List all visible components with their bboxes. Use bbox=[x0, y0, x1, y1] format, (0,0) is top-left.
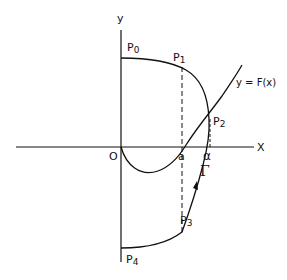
y-axis-label: y bbox=[117, 12, 124, 25]
curve-label: y = F(x) bbox=[236, 77, 276, 88]
point-p3: P3 bbox=[180, 214, 192, 228]
origin-label: O bbox=[109, 150, 118, 163]
gamma-label: Γ bbox=[200, 163, 210, 179]
point-p0: P0 bbox=[127, 41, 140, 55]
point-p1: P1 bbox=[173, 51, 185, 65]
direction-arrow-icon bbox=[193, 181, 198, 190]
point-p2: P2 bbox=[213, 115, 225, 129]
phase-diagram: y X O y = F(x) Γ a α P0 P1 P2 P3 P4 bbox=[0, 0, 287, 280]
x-axis-label: X bbox=[257, 141, 265, 154]
point-p4: P4 bbox=[126, 253, 139, 267]
mark-a: a bbox=[178, 150, 185, 163]
mark-alpha: α bbox=[203, 149, 211, 163]
trajectory-gamma bbox=[121, 58, 209, 248]
